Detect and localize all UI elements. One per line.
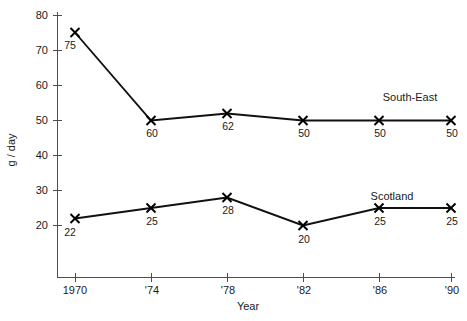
y-tick-label-20: 20	[36, 219, 48, 231]
value-label: 20	[298, 233, 310, 245]
y-tick-label-30: 30	[36, 184, 48, 196]
value-label: 28	[222, 204, 234, 216]
value-label: 25	[446, 215, 458, 227]
x-tick-labels: 1970 '74 '78 '82 '86 '90	[63, 284, 459, 296]
value-label: 25	[146, 215, 158, 227]
series-south-east-line	[75, 33, 451, 121]
y-tick-label-40: 40	[36, 149, 48, 161]
series-label-scotland: Scotland	[371, 190, 414, 202]
x-tick-label-1970: 1970	[63, 284, 87, 296]
value-label: 22	[64, 226, 76, 238]
chart-canvas: 80 70 60 50 40 30 20 1970 '74 '78 '82 '8…	[0, 0, 467, 321]
y-tick-label-80: 80	[36, 9, 48, 21]
axes-group	[58, 12, 456, 278]
y-tick-label-70: 70	[36, 44, 48, 56]
x-tick-label-74: '74	[145, 284, 159, 296]
x-tick-label-78: '78	[221, 284, 235, 296]
series-south-east-markers	[71, 28, 456, 125]
value-label: 50	[298, 127, 310, 139]
y-tick-label-50: 50	[36, 114, 48, 126]
x-tick-label-82: '82	[297, 284, 311, 296]
marker-x-icon	[71, 28, 80, 37]
y-axis-title: g / day	[5, 133, 17, 167]
x-tick-label-86: '86	[373, 284, 387, 296]
value-label: 25	[374, 215, 386, 227]
value-label: 50	[446, 127, 458, 139]
line-chart: 80 70 60 50 40 30 20 1970 '74 '78 '82 '8…	[0, 0, 467, 321]
x-axis-title: Year	[237, 300, 260, 312]
y-tick-label-60: 60	[36, 79, 48, 91]
series-south-east: 75 60 62 50 50 50 South-East	[64, 28, 458, 139]
value-label: 62	[222, 120, 234, 132]
series-scotland: 22 25 28 20 25 25 Scotland	[64, 190, 458, 245]
series-label-south-east: South-East	[383, 91, 437, 103]
y-tick-labels: 80 70 60 50 40 30 20	[36, 9, 48, 231]
value-label: 75	[64, 39, 76, 51]
value-label: 60	[146, 127, 158, 139]
value-label: 50	[374, 127, 386, 139]
x-tick-label-90: '90	[445, 284, 459, 296]
